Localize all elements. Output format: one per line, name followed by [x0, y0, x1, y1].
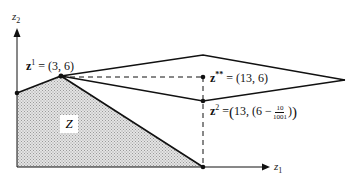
x-axis-label: z1	[274, 160, 282, 175]
point-left	[15, 91, 20, 96]
point-z1	[59, 74, 64, 79]
region-label: Z	[60, 115, 78, 133]
fraction: 101001	[273, 104, 287, 121]
point-z-star-star	[201, 75, 206, 80]
point-bottom	[201, 165, 206, 170]
label-z2: z2 =(13, (6 −101001))	[210, 104, 297, 121]
point-z2	[201, 99, 206, 104]
diagram-canvas	[0, 0, 360, 181]
label-z-star-star: z** = (13, 6)	[210, 71, 268, 84]
x-axis-arrow-icon	[262, 164, 270, 171]
y-axis-arrow-icon	[14, 28, 21, 37]
label-z1: z1 = (3, 6)	[26, 59, 74, 72]
feasible-region-z	[17, 76, 203, 167]
y-axis-label: z2	[12, 10, 20, 25]
